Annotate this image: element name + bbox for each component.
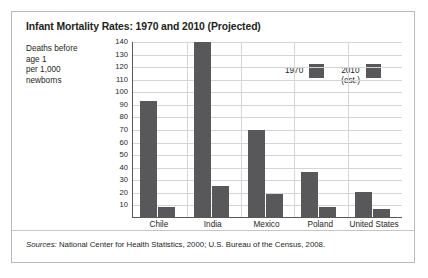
- x-tick-label: Mexico: [240, 220, 294, 230]
- bar-group: [133, 42, 187, 217]
- source-note: Sources: National Center for Health Stat…: [26, 240, 325, 250]
- y-axis-caption-line-1: Deaths before: [26, 44, 112, 55]
- y-tick-label: 110: [116, 76, 128, 84]
- bar-mexico-2010: [266, 194, 283, 217]
- y-tick-label: 130: [115, 51, 128, 59]
- y-tick-label: 10: [120, 202, 128, 210]
- bar-group: [348, 42, 402, 217]
- y-tick-label: 100: [115, 88, 128, 96]
- source-text: National Center for Health Statistics, 2…: [57, 240, 325, 249]
- plot-wrapper: 140130120110100908070605040302010 1970 2…: [108, 42, 402, 232]
- bar-united-states-2010: [373, 209, 390, 217]
- y-tick-label: 50: [120, 151, 128, 159]
- y-axis-caption-line-2: age 1: [26, 55, 112, 66]
- y-tick-label: 90: [120, 101, 128, 109]
- y-axis-caption: Deaths before age 1 per 1,000 newborns: [26, 44, 112, 86]
- plot-area: 1970 2010 (est.): [132, 42, 402, 218]
- y-tick-label: 80: [120, 114, 128, 122]
- bar-chile-2010: [158, 207, 175, 217]
- y-tick-label: 120: [115, 63, 128, 71]
- x-tick-label: Poland: [293, 220, 347, 230]
- y-tick-label: 40: [120, 164, 128, 172]
- y-tick-label: 70: [120, 126, 128, 134]
- chart-title: Infant Mortality Rates: 1970 and 2010 (P…: [26, 21, 261, 32]
- y-axis-caption-line-4: newborns: [26, 76, 112, 87]
- bar-india-2010: [212, 186, 229, 217]
- bar-poland-1970: [301, 172, 318, 217]
- chart-figure: Infant Mortality Rates: 1970 and 2010 (P…: [11, 11, 415, 263]
- bar-group: [187, 42, 241, 217]
- x-tick-label: India: [186, 220, 240, 230]
- bar-group: [241, 42, 295, 217]
- bar-united-states-1970: [355, 192, 372, 217]
- x-tick-label: United States: [347, 220, 401, 230]
- bar-chile-1970: [140, 101, 157, 217]
- y-tick-label: 20: [120, 189, 128, 197]
- y-axis: 140130120110100908070605040302010: [108, 42, 130, 218]
- source-label: Sources:: [26, 240, 57, 249]
- y-tick-label: 60: [120, 139, 128, 147]
- bar-mexico-1970: [248, 130, 265, 217]
- x-tick-label: Chile: [132, 220, 186, 230]
- bar-poland-2010: [319, 207, 336, 217]
- y-tick-label: 30: [120, 176, 128, 184]
- bar-group: [294, 42, 348, 217]
- y-axis-caption-line-3: per 1,000: [26, 65, 112, 76]
- y-tick-label: 140: [115, 38, 128, 46]
- bar-india-1970: [194, 42, 211, 217]
- source-divider: [12, 230, 414, 231]
